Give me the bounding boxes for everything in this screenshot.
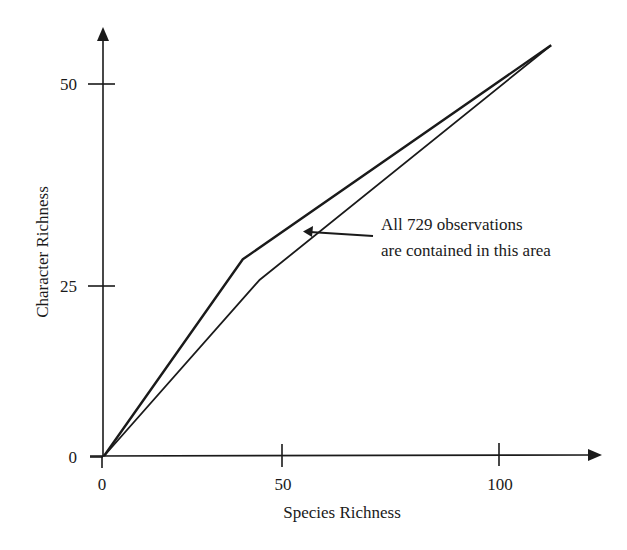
y-axis-title: Character Richness — [33, 186, 52, 318]
y-tick-label-0: 0 — [69, 448, 78, 467]
x-axis-arrow-icon — [588, 449, 602, 461]
chart-canvas: 50 25 0 Character Richness 0 50 100 Spec… — [0, 0, 627, 550]
x-tick-label-50: 50 — [275, 475, 292, 494]
annotation-text-line-2: are contained in this area — [381, 241, 551, 260]
x-axis-title: Species Richness — [283, 503, 401, 522]
x-tick-label-100: 100 — [487, 475, 513, 494]
y-axis: 50 25 0 Character Richness — [33, 27, 115, 467]
x-tick-label-0: 0 — [98, 475, 107, 494]
annotation-arrow-line — [310, 232, 373, 236]
y-tick-label-50: 50 — [60, 75, 77, 94]
annotation-arrowhead-icon — [303, 226, 313, 237]
y-axis-arrow-icon — [97, 27, 109, 41]
annotation-text-line-1: All 729 observations — [381, 215, 523, 234]
x-axis: 0 50 100 Species Richness — [90, 443, 602, 522]
y-tick-label-25: 25 — [60, 277, 77, 296]
annotation: All 729 observations are contained in th… — [303, 215, 551, 260]
